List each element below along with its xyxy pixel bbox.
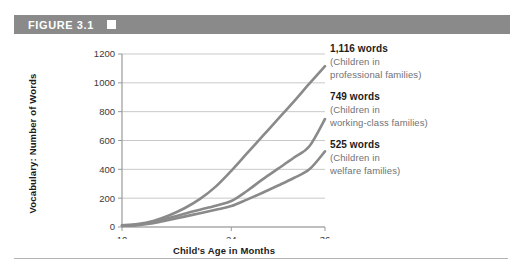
y-tick-label: 1200 <box>94 48 115 59</box>
bottom-divider <box>14 258 508 259</box>
annotation-welfare: 525 words (Children in welfare families) <box>330 138 515 177</box>
annotation-desc-line2: working-class families) <box>330 117 515 130</box>
x-tick-label: 10 <box>117 234 128 239</box>
y-tick-label: 600 <box>99 135 115 146</box>
series-line <box>122 66 325 225</box>
y-tick-label: 200 <box>99 193 115 204</box>
annotation-desc-line1: (Children in <box>330 56 515 69</box>
annotation-desc-line1: (Children in <box>330 152 515 165</box>
figure-container: FIGURE 3.1 020040060080010001200102436 V… <box>0 0 522 266</box>
series-line <box>122 151 325 226</box>
figure-number-label: FIGURE 3.1 <box>28 19 94 31</box>
annotation-value: 1,116 words <box>330 42 515 56</box>
y-tick-label: 800 <box>99 106 115 117</box>
x-tick-label: 36 <box>320 234 331 239</box>
annotation-desc-line2: professional families) <box>330 69 515 82</box>
annotation-working-class: 749 words (Children in working-class fam… <box>330 90 515 129</box>
figure-header-bar: FIGURE 3.1 <box>14 15 510 34</box>
annotation-value: 749 words <box>330 90 515 104</box>
annotation-value: 525 words <box>330 138 515 152</box>
annotation-professional: 1,116 words (Children in professional fa… <box>330 42 515 81</box>
y-tick-label: 0 <box>110 221 115 232</box>
chart-annotations: 1,116 words (Children in professional fa… <box>330 42 515 186</box>
x-tick-label: 24 <box>226 234 237 239</box>
white-square-icon <box>107 20 116 29</box>
y-tick-label: 1000 <box>94 77 115 88</box>
annotation-desc-line2: welfare families) <box>330 165 515 178</box>
y-axis-title: Vocabulary: Number of Words <box>27 49 38 239</box>
annotation-desc-line1: (Children in <box>330 104 515 117</box>
x-axis-title: Child's Age in Months <box>122 245 326 256</box>
series-line <box>122 119 325 226</box>
y-tick-label: 400 <box>99 164 115 175</box>
